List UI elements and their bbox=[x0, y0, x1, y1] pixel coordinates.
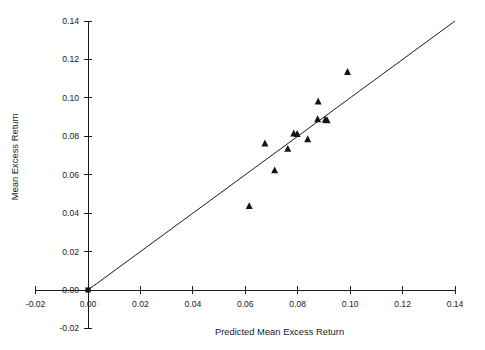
data-point-marker bbox=[261, 140, 268, 147]
data-point-marker bbox=[246, 202, 253, 209]
y-tick-label: -0.02 bbox=[59, 323, 79, 333]
data-point-marker bbox=[304, 135, 311, 142]
x-tick-label: 0.06 bbox=[237, 299, 254, 309]
x-tick-label: 0.04 bbox=[184, 299, 201, 309]
y-axis-title: Mean Excess Return bbox=[9, 113, 20, 200]
x-tick-label: 0.00 bbox=[80, 299, 97, 309]
plot-canvas: -0.020.000.020.040.060.080.100.120.14 -0… bbox=[0, 0, 485, 350]
data-point-marker bbox=[315, 97, 322, 104]
x-tick-label: 0.02 bbox=[132, 299, 149, 309]
y-tick-label: 0.08 bbox=[62, 131, 79, 141]
y-tick-label: 0.12 bbox=[62, 54, 79, 64]
origin-marker bbox=[85, 287, 90, 292]
scatter-chart-figure: -0.020.000.020.040.060.080.100.120.14 -0… bbox=[0, 0, 485, 350]
x-tick-label: -0.02 bbox=[26, 299, 46, 309]
data-point-marker bbox=[344, 68, 351, 75]
x-axis-tick-labels: -0.020.000.020.040.060.080.100.120.14 bbox=[26, 299, 464, 309]
y-tick-label: 0.04 bbox=[62, 208, 79, 218]
x-tick-label: 0.08 bbox=[289, 299, 306, 309]
data-point-marker bbox=[314, 115, 321, 122]
x-tick-label: 0.10 bbox=[342, 299, 359, 309]
y-tick-label: 0.06 bbox=[62, 170, 79, 180]
y-tick-label: 0.14 bbox=[62, 16, 79, 26]
y-tick-label: 0.00 bbox=[62, 285, 79, 295]
y-tick-label: 0.02 bbox=[62, 247, 79, 257]
x-tick-label: 0.12 bbox=[394, 299, 411, 309]
data-point-marker bbox=[271, 166, 278, 173]
y-axis-tick-labels: -0.020.000.020.040.060.080.100.120.14 bbox=[59, 16, 79, 333]
y-tick-label: 0.10 bbox=[62, 93, 79, 103]
x-axis-title: Predicted Mean Excess Return bbox=[215, 326, 344, 337]
identity-reference-line bbox=[88, 21, 455, 290]
x-tick-label: 0.14 bbox=[447, 299, 464, 309]
data-point-markers bbox=[85, 68, 351, 293]
